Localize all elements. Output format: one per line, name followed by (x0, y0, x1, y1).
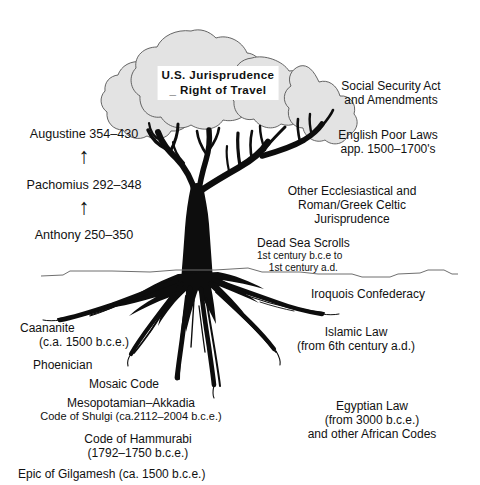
label-other-ecclesiastical-line2: Roman/Greek Celtic (288, 198, 417, 212)
arrow-up-augustine: ↑ (79, 145, 90, 167)
arrow-up-pachomius: ↑ (79, 196, 90, 218)
label-social-security-act-line2: and Amendments (341, 93, 440, 107)
label-code-of-hammurabi: Code of Hammurabi (1792–1750 b.c.e.) (84, 432, 191, 460)
canopy-label: U.S. Jurisprudence _ Right of Travel (158, 66, 279, 100)
label-caananite-line1: Caananite (20, 321, 129, 335)
label-egyptian-law: Egyptian Law (from 3000 b.c.e.) and othe… (308, 399, 437, 441)
label-dead-sea-scrolls-line1: Dead Sea Scrolls (257, 236, 350, 250)
label-social-security-act-line1: Social Security Act (341, 79, 440, 93)
label-other-ecclesiastical: Other Ecclesiastical and Roman/Greek Cel… (288, 184, 417, 226)
label-other-ecclesiastical-line1: Other Ecclesiastical and (288, 184, 417, 198)
label-english-poor-laws: English Poor Laws app. 1500–1700's (338, 128, 437, 156)
label-social-security-act: Social Security Act and Amendments (341, 79, 440, 107)
label-dead-sea-scrolls-line3: 1st century a.d. (257, 262, 350, 274)
label-islamic-law-line1: Islamic Law (297, 325, 415, 339)
label-caananite: Caananite (c.a. 1500 b.c.e.) (20, 321, 129, 349)
label-egyptian-law-line3: and other African Codes (308, 427, 437, 441)
label-dead-sea-scrolls-line2: 1st century b.c.e to (257, 250, 350, 262)
label-mesopotamian-akkadia-line1: Mesopotamian–Akkadia (40, 396, 221, 410)
label-islamic-law-line2: (from 6th century a.d.) (297, 339, 415, 353)
label-english-poor-laws-line1: English Poor Laws (338, 128, 437, 142)
canopy-label-line2: _ Right of Travel (162, 82, 275, 97)
label-anthony: Anthony 250–350 (35, 228, 134, 243)
label-islamic-law: Islamic Law (from 6th century a.d.) (297, 325, 415, 353)
label-iroquois-confederacy: Iroquois Confederacy (311, 287, 425, 301)
label-caananite-line2: (c.a. 1500 b.c.e.) (20, 335, 129, 349)
label-dead-sea-scrolls: Dead Sea Scrolls 1st century b.c.e to 1s… (257, 236, 350, 274)
label-english-poor-laws-line2: app. 1500–1700's (338, 142, 437, 156)
label-mesopotamian-akkadia: Mesopotamian–Akkadia Code of Shulgi (ca.… (40, 396, 221, 423)
label-other-ecclesiastical-line3: Jurisprudence (288, 212, 417, 226)
diagram-canvas: U.S. Jurisprudence _ Right of Travel Aug… (0, 0, 480, 485)
canopy-label-line1: U.S. Jurisprudence (162, 67, 275, 82)
label-pachomius: Pachomius 292–348 (27, 178, 142, 193)
label-mosaic-code: Mosaic Code (89, 377, 159, 391)
label-code-of-hammurabi-line1: Code of Hammurabi (84, 432, 191, 446)
label-augustine: Augustine 354–430 (30, 127, 139, 142)
trunk (181, 183, 213, 282)
label-mesopotamian-akkadia-line2: Code of Shulgi (ca.2112–2004 b.c.e.) (40, 410, 221, 423)
label-epic-of-gilgamesh: Epic of Gilgamesh (ca. 1500 b.c.e.) (18, 467, 205, 481)
label-phoenician: Phoenician (33, 358, 92, 372)
ground-line (41, 268, 458, 277)
label-egyptian-law-line2: (from 3000 b.c.e.) (308, 413, 437, 427)
label-egyptian-law-line1: Egyptian Law (308, 399, 437, 413)
label-code-of-hammurabi-line2: (1792–1750 b.c.e.) (84, 446, 191, 460)
